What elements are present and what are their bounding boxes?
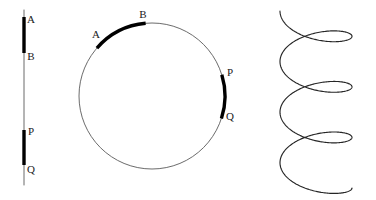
line-label-p: P [28, 125, 34, 137]
circle-label-a: A [92, 28, 100, 40]
figure-svg: A B P Q A B P Q [0, 0, 376, 200]
figure-canvas: A B P Q A B P Q [0, 0, 376, 200]
line-panel: A B P Q [24, 10, 35, 185]
helix-panel [280, 11, 352, 193]
circle-arc-pq [221, 75, 225, 119]
line-label-a: A [27, 13, 35, 25]
circle-label-q: Q [226, 110, 234, 122]
helix-coil-path [280, 11, 352, 193]
line-label-b: B [27, 50, 34, 62]
line-label-q: Q [27, 163, 35, 175]
circle-arc-ab [97, 23, 146, 48]
circle-label-b: B [139, 8, 146, 20]
circle-panel: A B P Q [79, 8, 234, 169]
circle-label-p: P [227, 66, 233, 78]
